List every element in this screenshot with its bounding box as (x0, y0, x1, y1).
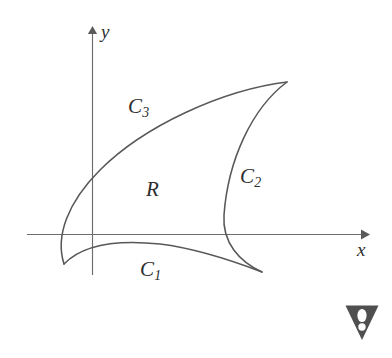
curve-c2-label-subscript: 2 (254, 175, 261, 190)
axes-group (27, 26, 370, 275)
y-axis-arrowhead-icon (88, 26, 97, 34)
curve-c2-label-base: C (240, 164, 254, 188)
y-axis-label: y (101, 22, 109, 41)
curve-c1-label: C1 (140, 259, 161, 283)
x-axis-label: x (357, 240, 365, 259)
warning-triangle-exclamation-icon (344, 303, 380, 341)
curve-c1-label-subscript: 1 (154, 268, 161, 283)
curve-c3-label-subscript: 3 (142, 105, 149, 120)
curve-c1-label-base: C (140, 257, 154, 281)
x-axis-arrowhead-icon (361, 230, 370, 240)
curve-c3-label: C3 (128, 96, 149, 120)
figure-drawing (0, 0, 392, 358)
region-r-label: R (146, 179, 159, 200)
curve-c3-label-base: C (128, 94, 142, 118)
figure-canvas: y x C3 C2 C1 R (0, 0, 392, 358)
curve-c2-label: C2 (240, 166, 261, 190)
